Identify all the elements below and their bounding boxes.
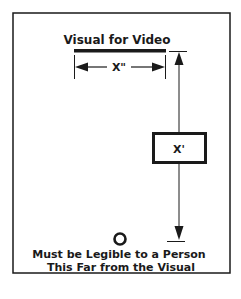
width-dimension: X" [75,55,166,79]
caption-line-2: This Far from the Visual [47,261,195,274]
caption-line-1: Must be Legible to a Person [32,248,205,261]
arrow-down-icon [175,226,184,240]
visual-title: Visual for Video [64,33,171,47]
width-label: X" [112,61,126,74]
arrow-right-icon [152,63,165,72]
arrow-left-icon [75,63,88,72]
visual-bar [74,49,166,53]
arrow-up-icon [175,52,184,65]
legibility-diagram: Visual for Video X" X' Must be Legible t… [0,0,241,299]
viewer-circle-icon [115,234,126,245]
distance-label: X' [173,143,185,156]
